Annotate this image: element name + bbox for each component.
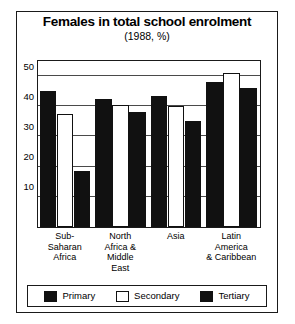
bar-tertiary-2: [185, 121, 202, 227]
y-tick-label-30: 30: [12, 122, 34, 132]
bar-secondary-0: [57, 114, 74, 227]
y-tick-label-40: 40: [12, 92, 34, 102]
category-label-line: East: [87, 263, 155, 274]
chart-legend: PrimarySecondaryTertiary: [27, 285, 267, 307]
y-tick-label-50: 50: [12, 62, 34, 72]
bar-primary-2: [151, 96, 168, 227]
y-tick-label-20: 20: [12, 152, 34, 162]
bar-primary-3: [206, 82, 223, 227]
category-label-line: & Caribbean: [198, 252, 266, 263]
bars-layer: [38, 61, 260, 227]
chart-figure: Females in total school enrolment (1988,…: [0, 0, 295, 324]
plot-area: [37, 60, 261, 228]
bar-tertiary-1: [129, 112, 146, 227]
bar-tertiary-3: [240, 88, 257, 227]
chart-title-block: Females in total school enrolment (1988,…: [18, 14, 276, 43]
legend-label: Secondary: [134, 291, 179, 301]
category-label-line: Africa &: [87, 242, 155, 253]
bar-secondary-2: [168, 106, 185, 227]
y-axis-tick-labels: 1020304050: [8, 60, 34, 228]
y-tick-label-10: 10: [12, 182, 34, 192]
bar-primary-1: [95, 99, 112, 227]
legend-swatch-icon: [200, 291, 213, 302]
x-axis-category-labels: Sub-SaharanAfricaNorthAfrica &MiddleEast…: [37, 231, 261, 283]
legend-swatch-icon: [116, 291, 129, 302]
legend-item-secondary[interactable]: Secondary: [116, 291, 179, 302]
chart-title: Females in total school enrolment: [18, 14, 276, 29]
legend-item-tertiary[interactable]: Tertiary: [200, 291, 249, 302]
category-label-line: Middle: [87, 252, 155, 263]
category-label-line: Latin: [198, 231, 266, 242]
bar-primary-0: [40, 91, 57, 227]
bar-secondary-3: [223, 73, 240, 227]
legend-label: Tertiary: [218, 291, 249, 301]
category-label-line: America: [198, 242, 266, 253]
chart-subtitle: (1988, %): [18, 30, 276, 43]
bar-tertiary-0: [74, 171, 91, 227]
category-label-3: LatinAmerica& Caribbean: [198, 231, 266, 263]
legend-label: Primary: [62, 291, 95, 301]
bar-secondary-1: [112, 105, 129, 227]
legend-swatch-icon: [44, 291, 57, 302]
legend-item-primary[interactable]: Primary: [44, 291, 95, 302]
